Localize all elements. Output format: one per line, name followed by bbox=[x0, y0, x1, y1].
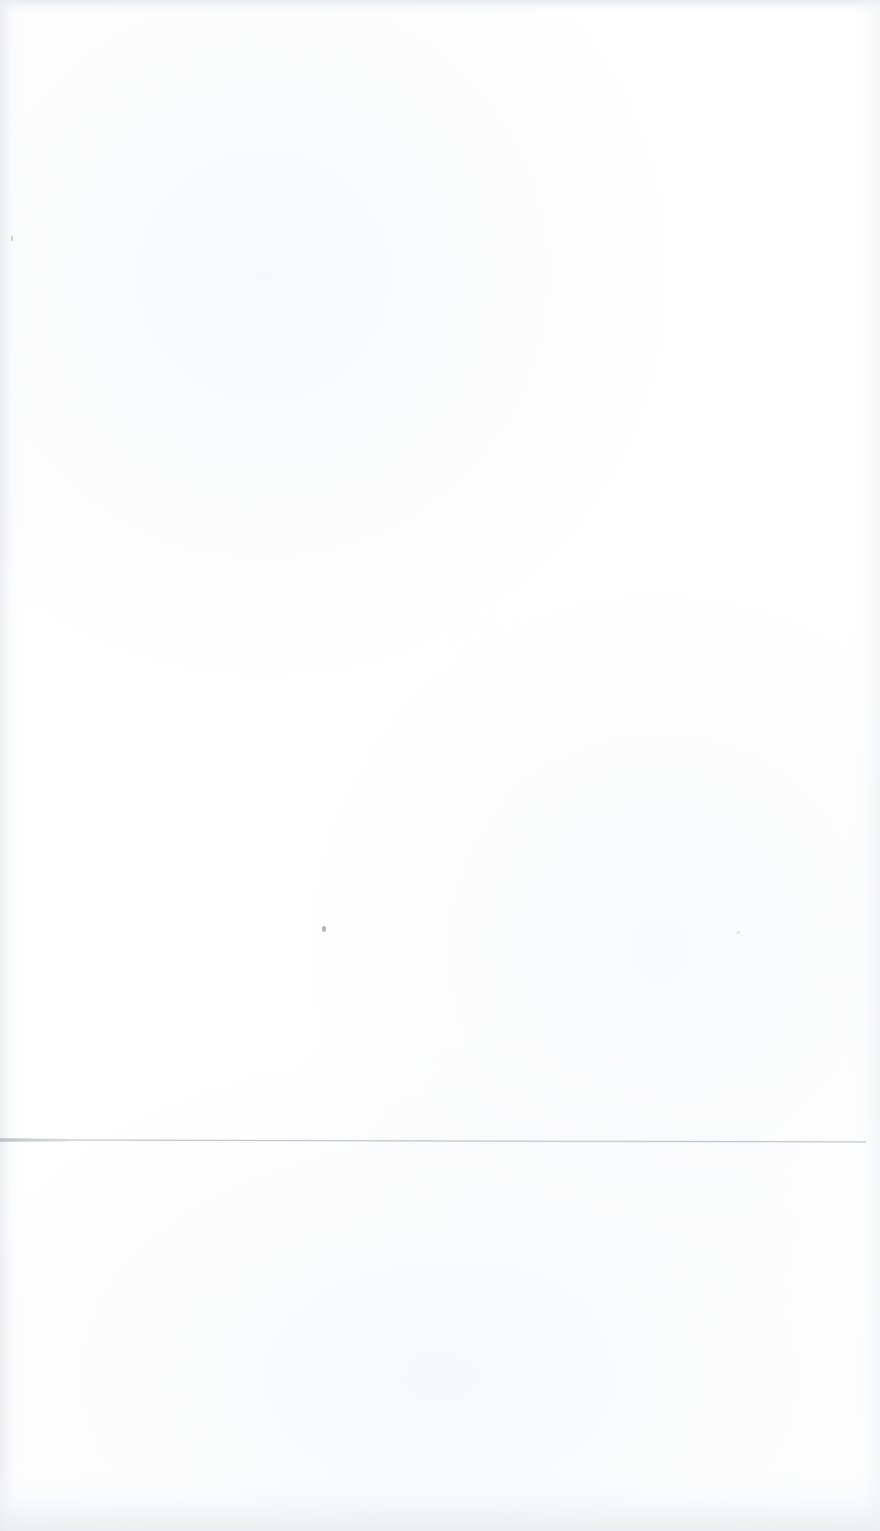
page-right-edge-shading bbox=[850, 0, 880, 1531]
scan-speck bbox=[11, 236, 13, 241]
page-bottom-edge-shading bbox=[0, 1471, 880, 1531]
scanned-page bbox=[0, 0, 880, 1531]
page-left-edge-shading bbox=[0, 0, 26, 1531]
page-top-edge-shading bbox=[0, 0, 880, 14]
page-content-area bbox=[70, 90, 810, 1411]
